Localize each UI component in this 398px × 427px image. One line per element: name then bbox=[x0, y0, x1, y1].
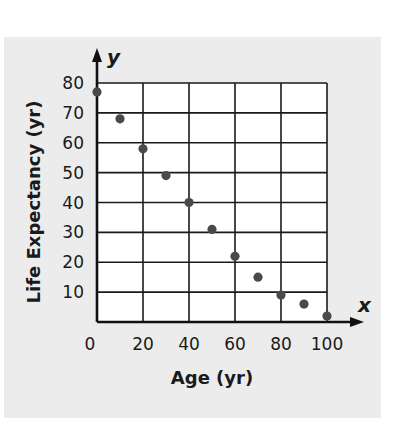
x-axis-label: Age (yr) bbox=[171, 367, 253, 388]
y-tick-label: 20 bbox=[62, 252, 84, 272]
y-tick-label: 50 bbox=[62, 163, 84, 183]
data-point bbox=[322, 311, 331, 320]
scatter-chart: 1020304050607080 020406080100 x y Age (y… bbox=[0, 0, 398, 427]
x-axis-variable: x bbox=[357, 293, 372, 317]
y-tick-labels: 1020304050607080 bbox=[62, 73, 84, 302]
data-point bbox=[138, 144, 147, 153]
x-axis-arrow-icon bbox=[350, 317, 364, 327]
x-tick-label: 100 bbox=[311, 334, 343, 354]
data-point bbox=[299, 299, 308, 308]
data-point bbox=[230, 252, 239, 261]
data-point bbox=[276, 291, 285, 300]
data-point bbox=[92, 87, 101, 96]
y-axis-label: Life Expectancy (yr) bbox=[23, 101, 44, 304]
data-point bbox=[207, 225, 216, 234]
x-tick-labels: 020406080100 bbox=[85, 334, 344, 354]
y-tick-label: 80 bbox=[62, 73, 84, 93]
y-tick-label: 30 bbox=[62, 222, 84, 242]
y-tick-label: 40 bbox=[62, 193, 84, 213]
x-tick-label: 20 bbox=[132, 334, 154, 354]
y-axis-variable: y bbox=[107, 45, 121, 69]
y-tick-label: 60 bbox=[62, 133, 84, 153]
y-tick-label: 10 bbox=[62, 282, 84, 302]
x-tick-label: 80 bbox=[270, 334, 292, 354]
y-tick-label: 70 bbox=[62, 103, 84, 123]
data-point bbox=[184, 198, 193, 207]
x-tick-label: 60 bbox=[224, 334, 246, 354]
x-tick-label: 40 bbox=[178, 334, 200, 354]
x-tick-label: 0 bbox=[85, 334, 96, 354]
data-point bbox=[161, 171, 170, 180]
data-point bbox=[115, 114, 124, 123]
data-point bbox=[253, 273, 262, 282]
y-axis-arrow-icon bbox=[92, 48, 102, 62]
